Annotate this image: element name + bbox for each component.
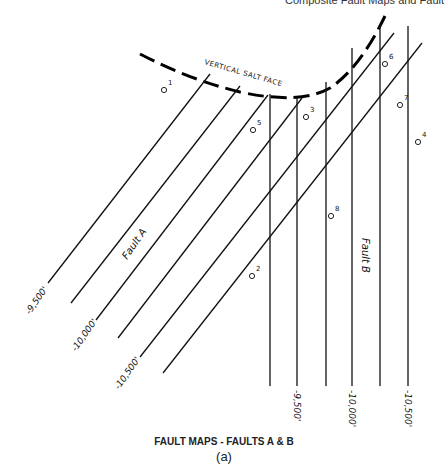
- fault-a-label-10000: -10,000': [69, 317, 99, 353]
- svg-text:4: 4: [422, 131, 427, 139]
- figure-sublabel: (a): [0, 449, 448, 464]
- well-4: 4: [415, 131, 427, 145]
- svg-text:5: 5: [257, 119, 261, 127]
- well-5: 5: [250, 119, 261, 133]
- well-6: 6: [382, 53, 394, 67]
- fault-b-label-9500: -9,500': [292, 390, 302, 422]
- figure-caption: FAULT MAPS - FAULTS A & B: [0, 436, 448, 447]
- svg-text:2: 2: [256, 265, 260, 273]
- well-2: 2: [249, 265, 260, 279]
- fault-a-contour-4: [118, 98, 302, 338]
- fault-a-contours: [48, 33, 422, 373]
- svg-text:1: 1: [168, 79, 172, 87]
- fault-a-label-10500: -10,500': [112, 355, 142, 391]
- fault-b-name: Fault B: [360, 238, 371, 273]
- svg-text:7: 7: [404, 94, 408, 102]
- svg-text:3: 3: [310, 106, 314, 114]
- vertical-salt-face-boundary: [140, 16, 385, 98]
- svg-text:6: 6: [389, 53, 394, 61]
- fault-a-contour-3: [96, 95, 268, 320]
- fault-b-label-10500: -10,500': [403, 390, 413, 427]
- fault-a-contour-6: [163, 43, 422, 373]
- svg-text:8: 8: [335, 205, 339, 213]
- well-7: 7: [397, 94, 408, 108]
- well-8: 8: [328, 205, 339, 219]
- fault-b-label-10000: -10,000': [347, 390, 357, 427]
- well-1: 1: [161, 79, 172, 93]
- well-3: 3: [303, 106, 314, 120]
- fault-a-label-9500: -9,500': [23, 285, 49, 317]
- fault-a-contour-2: [71, 86, 240, 303]
